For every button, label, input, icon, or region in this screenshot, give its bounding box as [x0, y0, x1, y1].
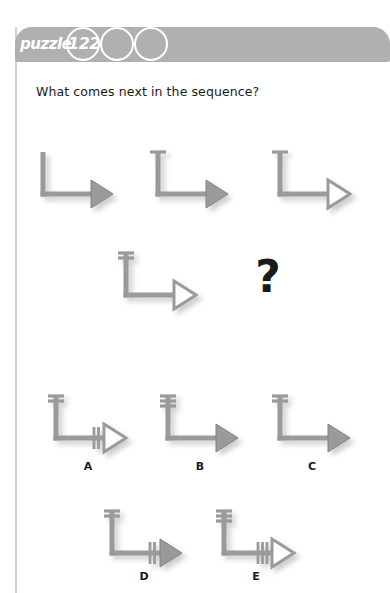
- answer-placeholder: ?: [238, 251, 298, 303]
- option-label-a: A: [38, 460, 138, 473]
- puzzle-number: 122: [68, 35, 98, 52]
- sequence-figure-1: [25, 146, 125, 218]
- puzzle-circle-3: [134, 27, 168, 61]
- sequence-figure-3: [262, 146, 362, 218]
- sequence-figure-4: [108, 247, 208, 319]
- option-figure-a[interactable]: [38, 390, 138, 462]
- puzzle-number-circle: 122: [66, 27, 100, 61]
- option-figure-d[interactable]: [94, 505, 194, 577]
- puzzle-header: puzzle 122: [15, 27, 390, 62]
- question-text: What comes next in the sequence?: [36, 84, 259, 99]
- option-label-e: E: [206, 570, 306, 583]
- option-label-d: D: [94, 570, 194, 583]
- option-label-c: C: [262, 460, 362, 473]
- puzzle-header-label: puzzle: [20, 35, 71, 54]
- option-figure-e[interactable]: [206, 505, 306, 577]
- puzzle-circle-2: [100, 27, 134, 61]
- option-figure-b[interactable]: [150, 390, 250, 462]
- option-label-b: B: [150, 460, 250, 473]
- option-figure-c[interactable]: [262, 390, 362, 462]
- sequence-figure-2: [140, 146, 240, 218]
